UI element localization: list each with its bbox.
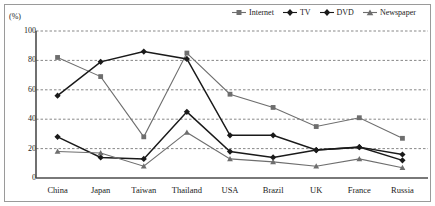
data-point-internet-russia <box>400 136 405 141</box>
data-point-tv-usa <box>227 132 233 138</box>
data-point-newspaper-france <box>356 156 362 161</box>
data-point-dvd-uk <box>313 147 319 153</box>
axes <box>36 31 428 178</box>
line-chart: Internet TV DVD Newspaper (%) 0204060801… <box>0 0 435 206</box>
data-point-tv-russia <box>399 151 405 157</box>
data-point-internet-japan <box>98 74 103 79</box>
plot-area <box>0 0 435 206</box>
data-point-dvd-china <box>54 134 60 140</box>
series-line-tv <box>58 52 403 155</box>
data-point-internet-thailand <box>184 51 189 56</box>
data-point-dvd-france <box>356 144 362 150</box>
data-point-internet-uk <box>314 124 319 129</box>
data-point-internet-china <box>55 55 60 60</box>
data-point-tv-brazil <box>270 132 276 138</box>
series-markers <box>54 48 405 170</box>
gridlines <box>36 31 428 149</box>
data-point-internet-brazil <box>271 105 276 110</box>
data-point-tv-taiwan <box>141 48 147 54</box>
data-point-internet-france <box>357 115 362 120</box>
data-point-internet-usa <box>228 92 233 97</box>
data-point-internet-taiwan <box>141 134 146 139</box>
data-point-dvd-russia <box>399 157 405 163</box>
data-point-newspaper-thailand <box>184 129 190 134</box>
